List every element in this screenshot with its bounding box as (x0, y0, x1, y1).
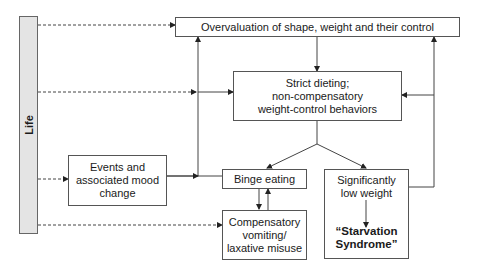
low-weight-node: Significantly low weight “Starvation Syn… (324, 169, 409, 259)
life-label: Life (23, 115, 35, 135)
binge-eating-label: Binge eating (234, 173, 295, 186)
life-bar: Life (19, 16, 38, 234)
events-line3: change (99, 187, 135, 200)
events-line2: associated mood (76, 174, 159, 187)
strict-dieting-node: Strict dieting; non-compensatory weight-… (233, 71, 402, 121)
dieting-to-lowweight-arrow (317, 144, 366, 168)
compensatory-line1: Compensatory (229, 216, 301, 229)
strict-dieting-line3: weight-control behaviors (258, 103, 377, 116)
low-weight-line1: Significantly (337, 174, 396, 187)
compensatory-line2: vomiting/ (242, 229, 286, 242)
compensatory-node: Compensatory vomiting/ laxative misuse (222, 210, 307, 260)
events-node: Events and associated mood change (68, 155, 167, 206)
overvaluation-label: Overvaluation of shape, weight and their… (201, 21, 434, 34)
lowweight-to-overvaluation-arrow (408, 37, 434, 187)
overvaluation-node: Overvaluation of shape, weight and their… (175, 17, 460, 37)
strict-dieting-line2: non-compensatory (272, 90, 363, 103)
binge-eating-node: Binge eating (222, 169, 307, 189)
starvation-line2: Syndrome” (336, 238, 398, 251)
events-line1: Events and (90, 161, 145, 174)
compensatory-line3: laxative misuse (227, 242, 302, 255)
starvation-line1: “Starvation (336, 225, 398, 238)
low-weight-line2: low weight (341, 187, 392, 200)
strict-dieting-line1: Strict dieting; (286, 77, 350, 90)
dieting-to-binge-arrow (267, 144, 317, 168)
